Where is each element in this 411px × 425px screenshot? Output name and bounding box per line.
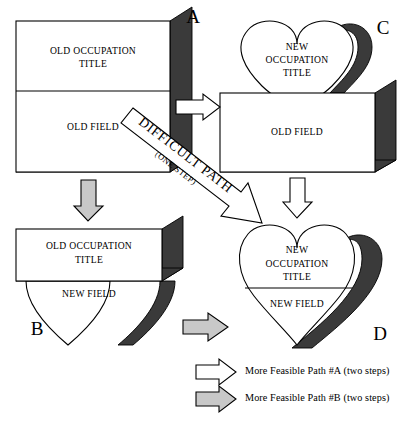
node-c-field-label: OLD FIELD	[271, 126, 323, 137]
node-c: NEW OCCUPATION TITLE OLD FIELD C	[220, 17, 396, 172]
node-a-front-face	[16, 21, 170, 172]
legend-label-b: More Feasible Path #B (two steps)	[245, 392, 390, 404]
node-b-title-line2: TITLE	[75, 254, 103, 265]
node-c-title-line1: NEW	[286, 41, 309, 52]
legend-swatch-white-arrow-icon	[196, 359, 236, 385]
diagram-canvas: OLD OCCUPATION TITLE OLD FIELD A NEW OCC…	[0, 0, 411, 425]
node-b: OLD OCCUPATION TITLE NEW FIELD B	[16, 216, 183, 345]
arrow-a-to-b-icon	[74, 180, 103, 221]
node-b-point-shadow	[118, 281, 175, 345]
diagram-root: OLD OCCUPATION TITLE OLD FIELD A NEW OCC…	[0, 0, 411, 425]
legend-swatch-gray-arrow-icon	[196, 386, 236, 412]
legend-item-a: More Feasible Path #A (two steps)	[196, 359, 390, 385]
node-a-corner-label: A	[186, 6, 200, 27]
node-b-corner-label: B	[31, 318, 44, 339]
node-c-side-face	[375, 80, 396, 172]
node-b-field-label: NEW FIELD	[62, 288, 116, 299]
arrow-b-to-d-icon	[183, 313, 228, 341]
node-a-title-line1: OLD OCCUPATION	[50, 45, 136, 56]
node-d-title-line1: NEW	[286, 244, 309, 255]
node-b-title-line1: OLD OCCUPATION	[46, 240, 132, 251]
node-d: NEW OCCUPATION TITLE NEW FIELD D	[239, 225, 386, 348]
legend-label-a: More Feasible Path #A (two steps)	[245, 365, 390, 377]
node-a-title-line2: TITLE	[79, 58, 107, 69]
node-d-title-line3: TITLE	[283, 271, 311, 282]
node-c-corner-label: C	[377, 17, 390, 38]
node-d-corner-label: D	[373, 323, 387, 344]
arrow-c-to-d-icon	[283, 178, 312, 218]
legend-item-b: More Feasible Path #B (two steps)	[196, 386, 390, 412]
node-a-field-label: OLD FIELD	[67, 121, 119, 132]
node-d-field-label: NEW FIELD	[270, 298, 324, 309]
node-d-title-line2: OCCUPATION	[266, 258, 329, 269]
legend: More Feasible Path #A (two steps) More F…	[196, 359, 390, 412]
node-c-title-line2: OCCUPATION	[266, 54, 329, 65]
node-c-title-line3: TITLE	[283, 67, 311, 78]
